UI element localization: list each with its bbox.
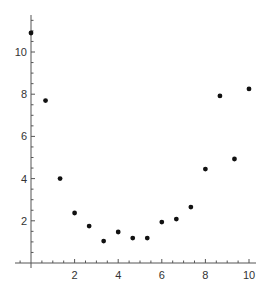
data-point bbox=[247, 87, 252, 92]
y-axis-tick-labels: 246810 bbox=[15, 46, 27, 227]
data-point bbox=[116, 230, 121, 235]
data-point bbox=[87, 224, 92, 229]
x-tick-label: 8 bbox=[202, 269, 208, 281]
y-tick-label: 6 bbox=[21, 130, 27, 142]
x-axis-ticks bbox=[20, 259, 249, 263]
x-tick-label: 10 bbox=[243, 269, 255, 281]
data-point bbox=[130, 236, 135, 241]
axes: 246810 246810 bbox=[15, 15, 256, 281]
data-point bbox=[232, 157, 237, 162]
data-point bbox=[145, 236, 150, 241]
data-point bbox=[72, 211, 77, 216]
x-tick-label: 6 bbox=[159, 269, 165, 281]
data-point bbox=[203, 167, 208, 172]
data-point bbox=[188, 205, 193, 210]
y-tick-label: 4 bbox=[21, 173, 27, 185]
y-axis-ticks bbox=[31, 20, 35, 252]
x-axis-tick-labels: 246810 bbox=[72, 269, 256, 281]
scatter-plot: 246810 246810 bbox=[0, 0, 278, 292]
data-point bbox=[43, 98, 48, 103]
y-tick-label: 2 bbox=[21, 215, 27, 227]
y-tick-label: 8 bbox=[21, 88, 27, 100]
data-point bbox=[58, 176, 63, 181]
data-point bbox=[101, 239, 106, 244]
y-tick-label: 10 bbox=[15, 46, 27, 58]
x-tick-label: 4 bbox=[115, 269, 121, 281]
x-tick-label: 2 bbox=[72, 269, 78, 281]
data-point bbox=[159, 220, 164, 225]
data-point bbox=[218, 93, 223, 98]
data-point bbox=[29, 31, 34, 36]
data-points bbox=[29, 31, 252, 244]
data-point bbox=[174, 217, 179, 222]
